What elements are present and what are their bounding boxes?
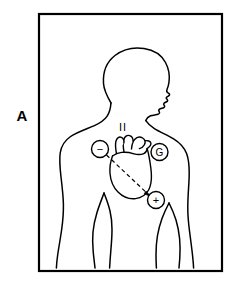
positive-electrode-symbol: + — [153, 194, 159, 206]
ground-electrode[interactable]: G — [151, 144, 168, 161]
negative-electrode-symbol: − — [97, 143, 103, 155]
lead-label-ii: II — [119, 121, 127, 133]
ecg-lead-placement-figure: A — [0, 0, 230, 282]
negative-electrode[interactable]: − — [92, 141, 109, 158]
figure-drawing: − G + II — [0, 0, 230, 282]
ground-electrode-symbol: G — [156, 147, 164, 158]
positive-electrode[interactable]: + — [148, 192, 165, 209]
